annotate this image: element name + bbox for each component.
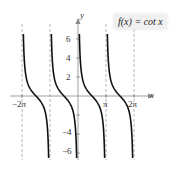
y-axis-label: y	[80, 11, 84, 20]
x-axis-label: x	[150, 91, 154, 100]
x-tick-neg2pi: −2π	[12, 100, 26, 109]
legend: f(x) = cot x	[114, 14, 167, 29]
y-tick-4: 4	[66, 54, 71, 63]
x-tick-2pi: 2π	[128, 100, 137, 109]
y-tick-neg4: −4	[62, 128, 72, 137]
y-tick-2: 2	[66, 73, 71, 82]
y-tick-6: 6	[66, 35, 71, 44]
y-tick-neg6: −6	[62, 147, 72, 156]
x-tick-pi: π	[103, 100, 108, 109]
